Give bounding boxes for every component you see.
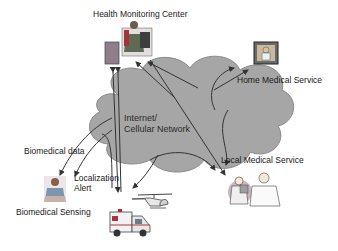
- diagram-canvas: Health Monitoring Center Home Medical Se…: [0, 0, 338, 251]
- helicopter-icon: [132, 194, 172, 208]
- biomedical-data-label: Biomedical data: [24, 146, 84, 156]
- biomedical-sensing-label: Biomedical Sensing: [16, 207, 91, 217]
- operator-workstation-icon: [105, 21, 152, 64]
- cloud-label: Internet/ Cellular Network: [124, 113, 190, 135]
- home-doctor-icon: [254, 42, 278, 64]
- patient-icon: [44, 176, 66, 202]
- local-medical-service-label: Local Medical Service: [221, 155, 304, 165]
- doctors-icon: [228, 173, 280, 206]
- health-monitoring-center-label: Health Monitoring Center: [93, 9, 188, 19]
- ambulance-icon: [110, 209, 150, 237]
- localization-alert-label: Localization Alert: [74, 173, 119, 193]
- home-medical-service-label: Home Medical Service: [237, 75, 322, 85]
